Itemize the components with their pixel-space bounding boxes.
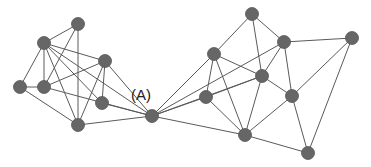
edge-R2-R3 [284, 38, 352, 42]
node-L4 [14, 81, 27, 94]
edge-layer [20, 14, 352, 153]
node-R9 [302, 147, 315, 160]
edge-R2-R7 [284, 42, 292, 96]
edge-R8-R9 [245, 135, 308, 153]
node-a-label: (A) [131, 86, 151, 103]
node-R1 [246, 8, 259, 21]
edge-R7-R8 [245, 96, 292, 135]
edge-R3-R9 [308, 38, 352, 153]
node-L2 [38, 37, 51, 50]
node-R4 [208, 48, 221, 61]
node-R6 [200, 91, 213, 104]
edge-R6-R8 [206, 97, 245, 135]
edge-R5-R8 [245, 76, 262, 135]
node-layer [14, 8, 359, 160]
node-R7 [286, 90, 299, 103]
node-L6 [96, 97, 109, 110]
edge-R1-R4 [214, 14, 252, 54]
node-L1 [72, 18, 85, 31]
edge-L2-L4 [20, 43, 44, 87]
edge-R7-R9 [292, 96, 308, 153]
node-R5 [256, 70, 269, 83]
node-R2 [278, 36, 291, 49]
node-L3 [99, 55, 112, 68]
edge-R1-R5 [252, 14, 262, 76]
edge-A-R4 [152, 54, 214, 116]
edge-R5-R6 [206, 76, 262, 97]
edge-R3-R7 [292, 38, 352, 96]
edge-L6-A [102, 103, 152, 116]
network-diagram: (A) [0, 0, 371, 167]
node-R8 [239, 129, 252, 142]
edge-L7-A [78, 116, 152, 125]
node-L7 [72, 119, 85, 132]
node-A [146, 110, 159, 123]
node-R3 [346, 32, 359, 45]
edge-A-R8 [152, 116, 245, 135]
edge-L4-L7 [20, 87, 78, 125]
node-L5 [38, 81, 51, 94]
